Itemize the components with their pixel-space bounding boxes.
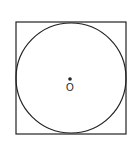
geometry-diagram: O xyxy=(0,0,136,142)
center-point xyxy=(68,77,72,81)
center-label: O xyxy=(66,82,74,93)
